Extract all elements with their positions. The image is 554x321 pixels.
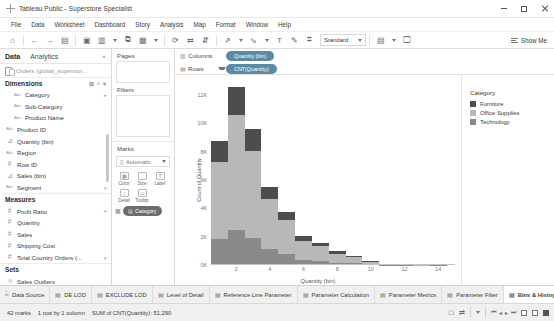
- marks-tooltip-button[interactable]: ▭ Tooltip: [133, 187, 151, 204]
- sheet-tab[interactable]: ⌸Data Source: [0, 286, 50, 304]
- menu-help[interactable]: Help: [273, 18, 296, 32]
- bar-segment[interactable]: [211, 162, 228, 238]
- chevron-down-icon[interactable]: [476, 311, 480, 314]
- menu-data[interactable]: Data: [26, 18, 49, 32]
- sheet-tab[interactable]: ▤DE LOD: [50, 286, 92, 304]
- menu-map[interactable]: Map: [188, 18, 210, 32]
- bar-segment[interactable]: [228, 230, 245, 265]
- bar-segment[interactable]: [245, 129, 262, 152]
- sort-asc-caret-icon[interactable]: [235, 33, 246, 48]
- bar-stack[interactable]: [329, 251, 346, 265]
- show-tabs-icon[interactable]: [521, 310, 527, 316]
- rows-pill[interactable]: CNT(Quantity): [226, 64, 277, 74]
- bar-segment[interactable]: [261, 187, 278, 199]
- field-shipping-cost[interactable]: # Shipping Cost: [0, 240, 111, 252]
- rows-shelf[interactable]: ▤ Rows CNT(Quantity): [175, 62, 554, 75]
- chevron-down-icon[interactable]: [218, 67, 226, 70]
- expand-icon[interactable]: ▾: [104, 208, 107, 214]
- bar-segment[interactable]: [211, 239, 228, 265]
- sheet-tab[interactable]: ▤Level of Detail: [153, 286, 210, 304]
- plot-area[interactable]: [211, 81, 455, 265]
- field-category[interactable]: Abc Category ▸: [0, 89, 111, 101]
- data-pane-scrollbar[interactable]: [106, 134, 109, 182]
- fix-axes-icon[interactable]: ▤: [373, 33, 388, 48]
- bar-segment[interactable]: [228, 87, 245, 115]
- menu-window[interactable]: Window: [241, 18, 273, 32]
- viz-canvas[interactable]: Count of Quantity 0K2K4K6K8K10K12K 24681…: [175, 75, 462, 285]
- save-icon[interactable]: ▤: [57, 33, 72, 48]
- bar-segment[interactable]: [278, 212, 295, 221]
- bar-segment[interactable]: [261, 249, 278, 265]
- bar-stack[interactable]: [312, 243, 329, 265]
- last-tab-icon[interactable]: ⏭: [511, 309, 516, 316]
- menu-worksheet[interactable]: Worksheet: [49, 18, 89, 32]
- labels-icon[interactable]: T: [272, 33, 287, 48]
- bar-segment[interactable]: [261, 199, 278, 249]
- field-sub-category[interactable]: Abc Sub-Category: [0, 101, 111, 113]
- sort-asc-icon[interactable]: ⇗: [220, 33, 235, 48]
- bar-segment[interactable]: [228, 115, 245, 230]
- expand-icon[interactable]: ▸: [104, 92, 107, 98]
- sheet-sorter-icon[interactable]: [543, 310, 549, 316]
- show-me-button[interactable]: Show Me: [511, 37, 547, 44]
- new-worksheet-caret-icon[interactable]: [109, 33, 120, 48]
- bar-segment[interactable]: [329, 254, 346, 263]
- clear-sheet-caret-icon[interactable]: [150, 33, 161, 48]
- group-by-folder-icon[interactable]: ⊞: [89, 81, 94, 87]
- pause-updates-icon[interactable]: ⇄: [183, 33, 198, 48]
- bar-segment[interactable]: [245, 151, 262, 237]
- bar-stack[interactable]: [261, 187, 278, 265]
- expand-icon[interactable]: ▾: [104, 255, 107, 261]
- field-sales-outliers[interactable]: ◎ Sales Outliers: [0, 275, 111, 285]
- menu-file[interactable]: File: [6, 18, 26, 32]
- chevron-down-icon[interactable]: ▾: [103, 81, 106, 87]
- bar-stack[interactable]: [228, 87, 245, 265]
- pages-shelf[interactable]: [116, 61, 170, 83]
- sort-desc-icon[interactable]: ⇘: [246, 33, 261, 48]
- legend-item-technology[interactable]: Technology: [462, 117, 554, 126]
- minimize-button[interactable]: [494, 0, 514, 18]
- undo-icon[interactable]: ←: [27, 33, 42, 48]
- fit-dropdown[interactable]: Standard: [320, 34, 366, 46]
- marks-detail-button[interactable]: ∴ Detail: [115, 187, 133, 204]
- close-button[interactable]: [534, 0, 554, 18]
- field-total-country-orders[interactable]: # Total Country Orders (... ▾: [0, 252, 111, 264]
- tab-analytics[interactable]: Analytics: [30, 53, 58, 60]
- fix-axes-caret-icon[interactable]: [388, 33, 399, 48]
- tab-nav-controls[interactable]: ⏮ ◂ ▸ ⏭: [491, 309, 516, 316]
- swap-rows-cols-icon[interactable]: ⇵: [198, 33, 213, 48]
- bar-stack[interactable]: [245, 129, 262, 265]
- field-quantity[interactable]: # Quantity: [0, 217, 111, 229]
- menu-story[interactable]: Story: [130, 18, 155, 32]
- columns-shelf[interactable]: ▥ Columns Quantity (bin): [175, 49, 554, 62]
- bar-segment[interactable]: [295, 241, 312, 260]
- sheet-tab[interactable]: ▤Parameter Filter: [442, 286, 504, 304]
- marks-color-pill[interactable]: ▤ Category: [123, 206, 162, 216]
- field-profit-ratio[interactable]: # Profit Ratio ▾: [0, 205, 111, 217]
- field-sales-bin[interactable]: ⊿ Sales (bin): [0, 170, 111, 182]
- first-tab-icon[interactable]: ⏮: [491, 309, 496, 316]
- bar-stack[interactable]: [278, 212, 295, 265]
- new-worksheet-icon[interactable]: ▥: [94, 33, 109, 48]
- highlight-icon[interactable]: ✎: [287, 33, 302, 48]
- new-data-source-icon[interactable]: ▣: [79, 33, 94, 48]
- marks-color-button[interactable]: ▩ Color: [115, 170, 133, 187]
- bar-segment[interactable]: [211, 141, 228, 162]
- sheet-tab[interactable]: ▤Reference Line Parameter: [210, 286, 298, 304]
- data-engine-icon[interactable]: ⇄: [459, 309, 465, 317]
- tableau-home-icon[interactable]: ⌂: [5, 33, 20, 48]
- user-icon[interactable]: ☖: [448, 309, 454, 317]
- legend-item-office-supplies[interactable]: Office Supplies: [462, 108, 554, 117]
- field-segment[interactable]: Abc Segment ▾: [0, 182, 111, 194]
- bar-stack[interactable]: [295, 236, 312, 265]
- filters-shelf[interactable]: [116, 95, 170, 137]
- field-product-id[interactable]: Abc Product ID: [0, 124, 111, 136]
- prev-tab-icon[interactable]: ◂: [499, 309, 502, 316]
- refresh-icon[interactable]: ⟳: [168, 33, 183, 48]
- duplicate-icon[interactable]: ⧉: [120, 33, 135, 48]
- legend-item-furniture[interactable]: Furniture: [462, 99, 554, 108]
- sheet-tab[interactable]: ▤EXCLUDE LOD: [92, 286, 153, 304]
- pane-collapse-icon[interactable]: «: [102, 53, 106, 59]
- bar-stack[interactable]: [211, 141, 228, 265]
- columns-pill[interactable]: Quantity (bin): [226, 51, 274, 61]
